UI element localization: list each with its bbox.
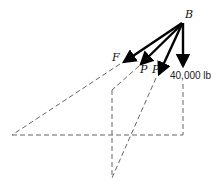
- force-arrow-p1: [141, 24, 182, 64]
- load-label: 40,000 lb: [170, 70, 212, 81]
- dashed-line-p1-extension: [112, 66, 139, 90]
- dashed-line-f-extension: [12, 64, 120, 135]
- point-b-label: B: [184, 8, 193, 21]
- force-diagram: B F P P 40,000 lb: [0, 0, 217, 186]
- force-p1-label: P: [139, 63, 148, 76]
- force-f-label: F: [111, 51, 120, 64]
- force-p2-label: P: [151, 63, 160, 76]
- construction-lines: [12, 64, 183, 178]
- dashed-line-p2-extension: [112, 78, 156, 178]
